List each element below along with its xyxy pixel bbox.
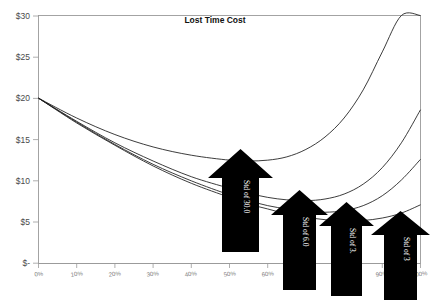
arrow-label-std-3b: Std of 3 xyxy=(402,237,411,261)
y-tick-label-5: $5 xyxy=(21,217,31,227)
arrow-shape-std-30[interactable] xyxy=(208,149,273,252)
x-axis-ticks xyxy=(39,264,421,269)
y-tick-label-25: $25 xyxy=(16,52,30,62)
y-tick-label-15: $15 xyxy=(16,135,30,145)
y-tick-label-10: $10 xyxy=(16,176,30,186)
arrow-shape-std-3b[interactable] xyxy=(371,211,430,300)
x-tick-label-60: 60% xyxy=(261,270,274,278)
x-tick-label-40: 40% xyxy=(184,270,197,278)
arrow-shape-std-6[interactable] xyxy=(271,190,328,290)
y-tick-label-30: $30 xyxy=(16,11,30,21)
lost-time-cost-chart: Lost Time Cost $30 $25 $20 $15 $10 $5 $- xyxy=(0,0,438,300)
y-tick-label-0: $- xyxy=(22,258,30,268)
curve-0 xyxy=(39,13,421,161)
annotation-arrow-std-6[interactable]: Std of 6.0 xyxy=(271,190,328,290)
x-tick-label-10: 10% xyxy=(70,270,83,278)
y-axis: $30 $25 $20 $15 $10 $5 $- xyxy=(16,11,39,268)
chart-title: Lost Time Cost xyxy=(184,15,245,25)
chart-page: Lost Time Cost $30 $25 $20 $15 $10 $5 $- xyxy=(0,0,438,300)
y-tick-label-20: $20 xyxy=(16,93,30,103)
arrow-label-std-6: Std of 6.0 xyxy=(301,217,310,247)
annotation-arrow-std-3b[interactable]: Std of 3 xyxy=(371,211,430,300)
arrow-shape-std-3a[interactable] xyxy=(319,202,374,296)
x-tick-label-20: 20% xyxy=(108,270,121,278)
arrow-label-std-30: Std of 30.0 xyxy=(242,180,251,213)
annotation-arrow-std-30[interactable]: Std of 30.0 xyxy=(208,149,273,252)
x-tick-label-50: 50% xyxy=(223,270,236,278)
x-tick-label-0: 0% xyxy=(34,270,44,277)
arrow-label-std-3a: Std of 3. xyxy=(348,228,357,254)
x-tick-label-30: 30% xyxy=(146,270,159,278)
x-axis-labels: 0% 10% 20% 30% 40% 50% 60% 70% 80% 90% 1… xyxy=(34,270,428,278)
annotation-arrow-std-3a[interactable]: Std of 3. xyxy=(319,202,374,296)
